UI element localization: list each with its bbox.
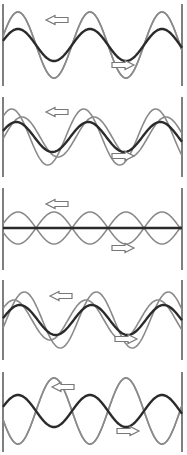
- standing-wave-diagram: [0, 0, 187, 455]
- arrow-left-icon: [52, 383, 74, 392]
- arrow-left-icon: [46, 200, 68, 209]
- wave-panel-1: [3, 4, 182, 86]
- component-wave-2: [3, 378, 182, 444]
- arrow-left-icon: [50, 292, 72, 301]
- wave-superposition-figure: [0, 0, 187, 455]
- arrow-right-icon: [112, 61, 134, 70]
- wave-panel-3: [3, 188, 182, 270]
- wave-panel-2: [3, 97, 182, 177]
- component-wave-1: [3, 12, 182, 78]
- component-wave-2: [3, 12, 182, 78]
- wave-panel-4: [3, 280, 182, 360]
- resultant-wave: [3, 29, 182, 61]
- component-wave-1: [3, 378, 182, 444]
- arrow-right-icon: [112, 244, 134, 253]
- arrow-left-icon: [46, 16, 68, 25]
- wave-panel-5: [3, 372, 182, 452]
- resultant-wave: [3, 305, 182, 335]
- resultant-wave: [3, 395, 182, 427]
- arrow-left-icon: [46, 108, 68, 117]
